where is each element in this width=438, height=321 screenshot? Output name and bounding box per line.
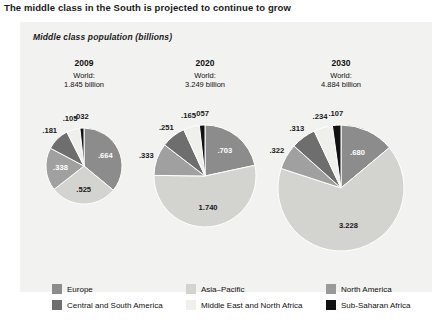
pie-slice-value-label: .251 [159,123,175,132]
pie-world-label: World: [185,71,225,80]
legend-item[interactable]: Sub-Saharan Africa [326,300,436,310]
pie-header-2009: 2009World:1.845 billion [64,58,104,89]
legend-swatch-icon [186,300,196,310]
pie-slice-value-label: .322 [270,146,285,155]
pie-slice-value-label: .313 [289,124,304,133]
pie-slice-value-label: .032 [74,112,89,121]
legend-label: Sub-Saharan Africa [341,301,410,310]
pie-slice-value-label: .057 [194,109,209,118]
chart-title: The middle class in the South is project… [4,2,291,13]
pie-canvas-2030: .6803.228.322.313.234.107 [256,103,426,273]
legend-label: Asia–Pacific [201,285,245,294]
pie-slice-value-label: .234 [313,112,329,121]
pie-year-label: 2030 [321,58,361,69]
figure-root: The middle class in the South is project… [0,0,438,321]
pie-slice-value-label: .338 [53,163,68,172]
pie-world-label: World: [321,71,361,80]
legend-swatch-icon [326,284,336,294]
legend-swatch-icon [52,284,62,294]
pie-slice-value-label: 1.740 [199,203,218,212]
legend-label: Middle East and North Africa [201,301,302,310]
pie-slice-value-label: .664 [98,151,114,160]
pie-slice-value-label: .680 [350,148,365,157]
legend-swatch-icon [326,300,336,310]
pie-header-2030: 2030World:4.884 billion [321,58,361,89]
pie-slice-value-label: .107 [329,109,344,118]
chart-subtitle: Middle class population (billions) [33,32,172,42]
pie-year-label: 2009 [64,58,104,69]
pie-year-label: 2020 [185,58,225,69]
pie-world-label: World: [64,71,104,80]
legend-item[interactable]: Middle East and North Africa [186,300,326,310]
legend-item[interactable]: Asia–Pacific [186,284,326,294]
legend-swatch-icon [186,284,196,294]
legend-swatch-icon [52,300,62,310]
pie-slice-value-label: .703 [218,146,233,155]
pie-slice-value-label: .333 [139,151,154,160]
pie-slice-value-label: 3.228 [339,221,358,230]
pie-slice-value-label: .525 [76,185,92,194]
pie-slice-value-label: .181 [42,126,58,135]
pie-world-total: 4.884 billion [321,80,361,89]
pie-panel-2030: 2030World:4.884 billion.6803.228.322.313… [281,58,401,257]
legend-label: Central and South America [67,301,163,310]
pie-panel-2020: 2020World:3.249 billion.7031.740.333.251… [145,58,265,233]
legend-item[interactable]: North America [326,284,436,294]
legend-label: Europe [67,285,93,294]
pie-world-total: 3.249 billion [185,80,225,89]
pie-panel-2009: 2009World:1.845 billion.664.525.338.181.… [24,58,144,210]
pie-header-2020: 2020World:3.249 billion [185,58,225,89]
legend-item[interactable]: Central and South America [52,300,186,310]
pie-canvas-2009: .664.525.338.181.105.032 [24,106,144,226]
legend-item[interactable]: Europe [52,284,186,294]
legend-label: North America [341,285,392,294]
chart-legend: EuropeAsia–PacificNorth AmericaCentral a… [52,281,412,313]
pie-world-total: 1.845 billion [64,80,104,89]
